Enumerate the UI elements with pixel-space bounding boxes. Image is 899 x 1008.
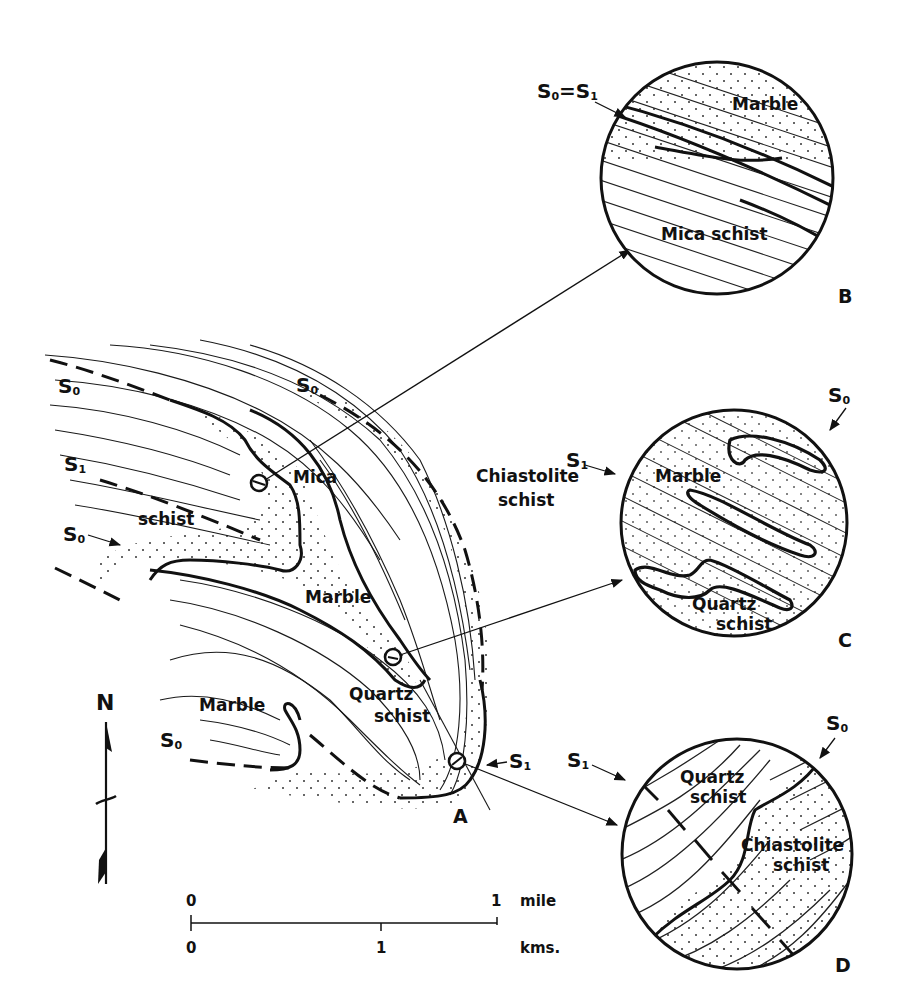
inset-b-label-mica-schist: Mica schist	[661, 224, 768, 244]
s0-label-top-center: S0	[296, 373, 318, 397]
inset-c-label-quartz: Quartz	[692, 594, 757, 614]
s0-label-bottom-left: S0	[160, 728, 182, 752]
inset-c: Marble Quartz schist S0 S1 C	[566, 383, 860, 665]
inset-d-label-quartz: Quartz	[680, 767, 745, 787]
inset-c-label-marble: Marble	[655, 466, 721, 486]
inset-b-s0-equals-s1: S0=S1	[537, 79, 598, 103]
inset-c-s0-label: S0	[828, 383, 850, 407]
scale-km-unit: kms.	[520, 939, 560, 957]
s0-lower-dashed	[190, 760, 290, 768]
inset-d-label-chiastolite-schist: schist	[773, 855, 829, 875]
scale-km-mid: 1	[376, 939, 386, 957]
inset-c-label-schist: schist	[716, 614, 772, 634]
panel-letter-c: C	[838, 629, 852, 651]
geologic-fold-diagram: Mica schist Marble Marble Quartz schist …	[0, 0, 899, 1008]
inset-c-s1-label: S1	[566, 448, 588, 472]
panel-letter-d: D	[835, 954, 851, 976]
north-arrow: N	[96, 690, 116, 884]
scale-mile-end: 1	[491, 892, 501, 910]
s1-label-left: S1	[64, 452, 86, 476]
label-mica: Mica	[293, 467, 337, 487]
scale-mile-unit: mile	[520, 892, 556, 910]
s0-label-mid-left: S0	[63, 522, 85, 546]
label-mica-schist: schist	[138, 509, 194, 529]
inset-d-label-quartz-schist: schist	[690, 787, 746, 807]
label-marble-upper: Marble	[305, 587, 371, 607]
label-chiastolite-schist: schist	[498, 490, 554, 510]
inset-d: Quartz schist Chiastolite schist S0 S1 D	[567, 711, 860, 980]
label-quartz: Quartz	[349, 684, 414, 704]
inset-b-label-marble: Marble	[732, 94, 798, 114]
label-chiastolite: Chiastolite	[476, 466, 579, 486]
connector-to-b	[265, 250, 630, 480]
marble-stipple-inner	[100, 400, 420, 690]
label-marble-lower: Marble	[199, 695, 265, 715]
inset-d-label-chiastolite: Chiastolite	[741, 835, 844, 855]
inset-d-s1-label: S1	[567, 748, 589, 772]
scale-mile-start: 0	[186, 892, 196, 910]
lower-marble-contact	[270, 703, 300, 770]
north-label: N	[96, 690, 114, 715]
scale-km-start: 0	[186, 939, 196, 957]
panel-letter-a: A	[453, 805, 468, 827]
connector-to-c	[400, 580, 622, 655]
connector-to-d	[463, 763, 617, 825]
s0-left-dashed	[55, 568, 120, 600]
s1-label-axial: S1	[509, 749, 531, 773]
north-arrow-bottom-barb-icon	[98, 848, 106, 884]
inset-d-s0-label: S0	[826, 711, 848, 735]
s0-label-top-left: S0	[58, 374, 80, 398]
map-a: Mica schist Marble Marble Quartz schist …	[45, 340, 579, 827]
panel-letter-b: B	[838, 285, 852, 307]
scale-bar: 0 1 mile 0 1 kms.	[186, 892, 560, 957]
label-quartz-schist: schist	[374, 706, 430, 726]
